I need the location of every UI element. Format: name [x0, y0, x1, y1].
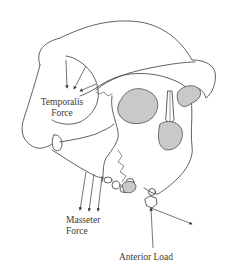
anterior-load-label: Anterior Load [119, 252, 173, 263]
temporalis-label-line1: Temporalis [34, 97, 90, 108]
left-orbit [118, 89, 158, 124]
masseter-force-label: Masseter Force [66, 215, 100, 236]
mastoid-process [52, 135, 62, 151]
temporalis-force-label: Temporalis Force [34, 97, 90, 118]
zygomatic-lower [52, 150, 104, 178]
masseter-label-line2: Force [66, 226, 100, 237]
masseter-arrow-1 [80, 172, 86, 210]
skull-diagram [0, 0, 227, 273]
zygomatic-outline [60, 124, 114, 142]
suture-line-face [118, 150, 126, 182]
anterior-load-arrow-right [151, 208, 192, 224]
masseter-label-line1: Masseter [66, 215, 100, 226]
anterior-load-arrow-up [151, 208, 153, 248]
temporalis-arrow-1 [66, 60, 67, 88]
palate-shadow [122, 181, 136, 192]
brow-ridge-outline [96, 62, 195, 90]
temporalis-arrow-2 [74, 66, 86, 89]
masseter-arrow-3 [98, 176, 102, 211]
temporalis-label-line2: Force [34, 108, 90, 119]
masseter-arrow-2 [89, 174, 94, 211]
maxilla-outline [102, 96, 118, 182]
right-orbit [177, 86, 200, 107]
nasal-cavity [158, 122, 182, 150]
